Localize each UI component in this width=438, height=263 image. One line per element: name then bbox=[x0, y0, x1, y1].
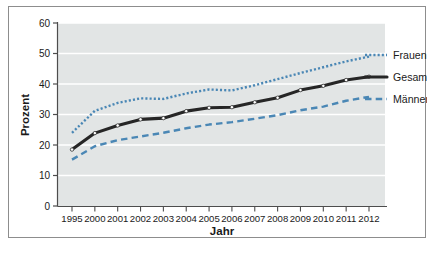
data-point-marker bbox=[253, 101, 256, 104]
x-tick-label: 2003 bbox=[153, 213, 174, 224]
x-tick-label: 2008 bbox=[267, 213, 288, 224]
chart-figure: 0102030405060 19952000200120022003200420… bbox=[0, 0, 438, 263]
y-axis-title: Prozent bbox=[19, 94, 31, 136]
chart-frame: 0102030405060 19952000200120022003200420… bbox=[8, 6, 426, 238]
y-tick-label: 30 bbox=[39, 109, 51, 120]
data-point-marker bbox=[322, 84, 325, 87]
data-point-marker bbox=[116, 124, 119, 127]
x-tick-label: 2006 bbox=[221, 213, 242, 224]
data-point-marker bbox=[70, 148, 73, 151]
legend-label-frauen: Frauen bbox=[393, 49, 427, 61]
data-point-marker bbox=[93, 131, 96, 134]
line-chart: 0102030405060 19952000200120022003200420… bbox=[9, 7, 427, 239]
data-point-marker bbox=[344, 78, 347, 81]
data-point-marker bbox=[207, 106, 210, 109]
x-tick-label: 2007 bbox=[244, 213, 265, 224]
x-tick-label: 2005 bbox=[198, 213, 219, 224]
x-tick-label: 2011 bbox=[336, 213, 357, 224]
x-tick-label: 2002 bbox=[130, 213, 151, 224]
x-tick-label: 2009 bbox=[290, 213, 311, 224]
y-tick-label: 20 bbox=[39, 140, 51, 151]
x-tick-label: 2000 bbox=[84, 213, 105, 224]
legend-label-gesamt: Gesamt bbox=[393, 71, 427, 83]
y-tick-label: 0 bbox=[44, 201, 50, 212]
x-tick-label: 2010 bbox=[313, 213, 334, 224]
x-tick-label: 2001 bbox=[107, 213, 128, 224]
x-tick-label: 2012 bbox=[358, 213, 379, 224]
data-point-marker bbox=[139, 118, 142, 121]
y-axis-ticks: 0102030405060 bbox=[39, 18, 58, 212]
x-tick-label: 1995 bbox=[61, 213, 82, 224]
data-point-marker bbox=[276, 96, 279, 99]
legend-label-männer: Männer bbox=[393, 93, 427, 105]
x-axis-title: Jahr bbox=[210, 225, 235, 237]
y-tick-label: 60 bbox=[39, 18, 51, 29]
data-point-marker bbox=[185, 109, 188, 112]
x-axis-ticks: 1995200020012002200320042005200620072008… bbox=[61, 207, 379, 225]
y-tick-label: 40 bbox=[39, 79, 51, 90]
data-point-marker bbox=[230, 105, 233, 108]
x-tick-label: 2004 bbox=[176, 213, 198, 224]
y-tick-label: 50 bbox=[39, 48, 51, 59]
data-point-marker bbox=[162, 116, 165, 119]
y-tick-label: 10 bbox=[39, 170, 51, 181]
data-point-marker bbox=[299, 88, 302, 91]
